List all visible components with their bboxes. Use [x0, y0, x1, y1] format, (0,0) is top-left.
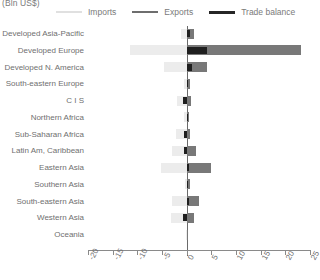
bar-trade-balance — [183, 97, 186, 104]
y-axis-label: Developed Europe — [0, 43, 84, 60]
bar-trade-balance — [187, 80, 188, 87]
legend-label-trade-balance: Trade balance — [241, 8, 295, 17]
bar-imports — [172, 196, 187, 206]
bar-trade-balance — [187, 30, 190, 37]
x-axis-tick-label: 10 — [235, 249, 247, 261]
y-axis-label: Southern Asia — [0, 177, 84, 194]
x-axis-tick-label: 5 — [210, 253, 220, 261]
y-axis-label: Western Asia — [0, 210, 84, 227]
chart-row[interactable] — [88, 76, 310, 93]
legend-swatch-imports-icon — [56, 11, 82, 13]
trade-bar-chart: (Bln US$) Imports Exports Trade balance … — [0, 0, 320, 280]
y-axis-label: Eastern Asia — [0, 160, 84, 177]
x-axis-tick-label: -5 — [161, 251, 172, 262]
bar-exports — [187, 213, 194, 223]
chart-row[interactable] — [88, 210, 310, 227]
y-axis-label: South-eastern Asia — [0, 194, 84, 211]
legend-label-exports: Exports — [164, 8, 193, 17]
bar-imports — [161, 163, 187, 173]
y-axis-label: South-eastern Europe — [0, 76, 84, 93]
chart-row[interactable] — [88, 177, 310, 194]
legend-item-trade-balance[interactable]: Trade balance — [209, 8, 295, 17]
y-axis-label: Northern Africa — [0, 110, 84, 127]
chart-row[interactable] — [88, 93, 310, 110]
bar-exports — [187, 163, 212, 173]
bar-trade-balance — [184, 147, 187, 154]
bar-exports — [187, 96, 191, 106]
legend-item-exports[interactable]: Exports — [132, 8, 193, 17]
bar-exports — [187, 146, 196, 156]
bar-trade-balance — [187, 181, 188, 188]
unit-label: (Bln US$) — [2, 0, 40, 8]
bar-trade-balance — [187, 198, 189, 205]
x-axis-tick-label: 0 — [186, 253, 196, 261]
legend-swatch-trade-balance-icon — [209, 11, 235, 14]
chart-row[interactable] — [88, 110, 310, 127]
plot-area — [88, 26, 310, 244]
bar-trade-balance — [184, 131, 187, 138]
chart-row[interactable] — [88, 143, 310, 160]
y-axis-label: Latin Am, Caribbean — [0, 143, 84, 160]
bar-trade-balance — [187, 47, 208, 54]
y-axis-label: Oceania — [0, 227, 84, 244]
legend-item-imports[interactable]: Imports — [56, 8, 116, 17]
chart-row[interactable] — [88, 127, 310, 144]
legend-swatch-exports-icon — [132, 11, 158, 13]
chart-legend: Imports Exports Trade balance — [56, 8, 295, 17]
bar-exports — [187, 129, 190, 139]
y-axis-label: C I S — [0, 93, 84, 110]
legend-label-imports: Imports — [88, 8, 116, 17]
bar-imports — [164, 62, 186, 72]
bar-trade-balance — [187, 114, 188, 121]
y-axis-label: Developed Asia-Pacific — [0, 26, 84, 43]
chart-row[interactable] — [88, 194, 310, 211]
bar-trade-balance — [187, 64, 192, 71]
bar-imports — [130, 45, 187, 55]
bar-exports — [187, 230, 188, 240]
bar-trade-balance — [183, 214, 187, 221]
chart-row[interactable] — [88, 227, 310, 244]
chart-row[interactable] — [88, 160, 310, 177]
y-axis-label: Developed N. America — [0, 60, 84, 77]
chart-row[interactable] — [88, 26, 310, 43]
x-axis: -20-15-10-50510152025 — [88, 250, 310, 280]
y-axis-category-labels: Developed Asia-PacificDeveloped EuropeDe… — [0, 26, 84, 244]
y-axis-label: Sub-Saharan Africa — [0, 127, 84, 144]
chart-row[interactable] — [88, 43, 310, 60]
x-axis-tick-label: 20 — [284, 249, 296, 261]
bar-trade-balance — [187, 164, 189, 171]
chart-row[interactable] — [88, 60, 310, 77]
